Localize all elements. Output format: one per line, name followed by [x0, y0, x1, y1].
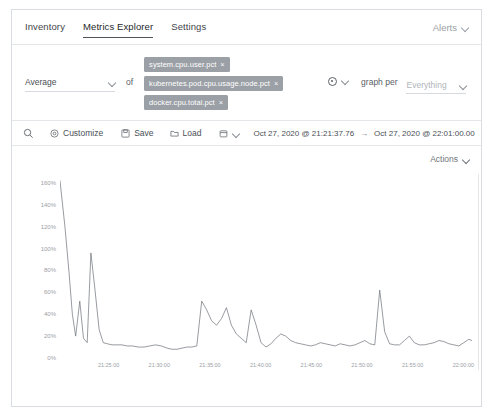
metric-tag-label: system.cpu.user.pct: [149, 61, 216, 69]
metric-tag[interactable]: kubernetes.pod.cpu.usage.node.pct ×: [144, 76, 283, 91]
date-range-display[interactable]: Oct 27, 2020 @ 21:21:37.76 → Oct 27, 202…: [253, 129, 474, 138]
date-range-arrow-icon: →: [360, 129, 368, 138]
metrics-line-chart[interactable]: [60, 172, 472, 358]
date-range-start[interactable]: Oct 27, 2020 @ 21:21:37.76: [253, 129, 354, 138]
tab-metrics-explorer[interactable]: Metrics Explorer: [83, 10, 153, 44]
customize-label: Customize: [63, 128, 103, 138]
x-axis-tick: 21:55:00: [402, 362, 423, 368]
metric-tag-label: kubernetes.pod.cpu.usage.node.pct: [149, 80, 270, 88]
alerts-label: Alerts: [433, 22, 457, 33]
close-icon[interactable]: ×: [274, 80, 278, 88]
y-axis-tick: 100%: [41, 246, 56, 252]
metric-tag[interactable]: docker.cpu.total.pct ×: [144, 95, 228, 110]
chart-panel: Actions 160%140%120%100%80%60%40%20%0% 2…: [12, 146, 481, 416]
y-axis-tick: 80%: [44, 267, 56, 273]
metric-tag[interactable]: system.cpu.user.pct ×: [144, 57, 230, 72]
x-axis-tick: 21:50:00: [351, 362, 372, 368]
save-button[interactable]: Save: [121, 128, 153, 138]
actions-menu[interactable]: Actions: [430, 154, 469, 164]
graph-per-label: graph per: [361, 77, 397, 87]
chevron-down-icon: [462, 156, 469, 163]
y-axis-tick: 120%: [41, 224, 56, 230]
chevron-down-icon: [108, 79, 115, 86]
of-label: of: [126, 73, 133, 91]
graph-per-value: Everything: [406, 80, 446, 90]
expression-builder: Average of system.cpu.user.pct × kuberne…: [12, 45, 481, 120]
chevron-down-icon: [232, 130, 239, 137]
chart-right-axis-line: [478, 174, 479, 370]
y-axis-tick: 20%: [44, 333, 56, 339]
y-axis-tick-labels: 160%140%120%100%80%60%40%20%0%: [26, 172, 56, 354]
chevron-down-icon: [459, 82, 466, 89]
aggregation-value: Average: [25, 77, 57, 87]
x-axis-tick: 22:00:00: [453, 362, 474, 368]
add-metric-circle-icon[interactable]: [328, 77, 337, 86]
customize-button[interactable]: Customize: [50, 128, 103, 138]
x-axis-tick: 21:40:00: [250, 362, 271, 368]
metric-tag-label: docker.cpu.total.pct: [149, 99, 215, 107]
tab-settings[interactable]: Settings: [171, 10, 206, 44]
chart-series-line: [60, 181, 472, 350]
y-axis-tick: 60%: [44, 289, 56, 295]
load-label: Load: [183, 128, 202, 138]
actions-label: Actions: [430, 154, 458, 164]
chart-plot-area: 160%140%120%100%80%60%40%20%0% 21:25:002…: [12, 172, 483, 404]
y-axis-tick: 160%: [41, 180, 56, 186]
tab-inventory[interactable]: Inventory: [25, 10, 65, 44]
metrics-explorer-app: Inventory Metrics Explorer Settings Aler…: [11, 9, 482, 407]
calendar-picker-button[interactable]: [219, 129, 239, 138]
y-axis-tick: 40%: [44, 311, 56, 317]
chart-toolbar: Customize Save Load: [12, 120, 481, 146]
aggregation-select[interactable]: Average: [25, 73, 115, 92]
alerts-menu[interactable]: Alerts: [433, 22, 468, 33]
load-button[interactable]: Load: [170, 128, 202, 138]
close-icon[interactable]: ×: [220, 61, 224, 69]
x-axis-tick: 21:30:00: [149, 362, 170, 368]
save-disk-icon: [121, 129, 130, 138]
gear-icon: [50, 129, 59, 138]
x-axis-tick: 21:25:00: [98, 362, 119, 368]
calendar-icon: [219, 129, 228, 138]
nav-tabs: Inventory Metrics Explorer Settings: [25, 10, 206, 44]
top-navigation: Inventory Metrics Explorer Settings Aler…: [12, 10, 481, 44]
y-axis-tick: 140%: [41, 202, 56, 208]
date-range-end[interactable]: Oct 27, 2020 @ 22:01:00.00: [374, 129, 475, 138]
chevron-down-icon: [461, 24, 468, 31]
x-axis-tick-labels: 21:25:0021:30:0021:35:0021:40:0021:45:00…: [12, 362, 483, 374]
search-icon[interactable]: [23, 128, 34, 139]
y-axis-tick: 0%: [47, 355, 56, 361]
x-axis-tick: 21:45:00: [301, 362, 322, 368]
metric-tag-field[interactable]: system.cpu.user.pct × kubernetes.pod.cpu…: [144, 57, 322, 110]
load-folder-icon: [170, 129, 179, 138]
close-icon[interactable]: ×: [219, 99, 223, 107]
graph-per-select[interactable]: Everything: [406, 77, 466, 94]
chevron-down-icon[interactable]: [341, 77, 348, 84]
x-axis-tick: 21:35:00: [199, 362, 220, 368]
save-label: Save: [134, 128, 153, 138]
